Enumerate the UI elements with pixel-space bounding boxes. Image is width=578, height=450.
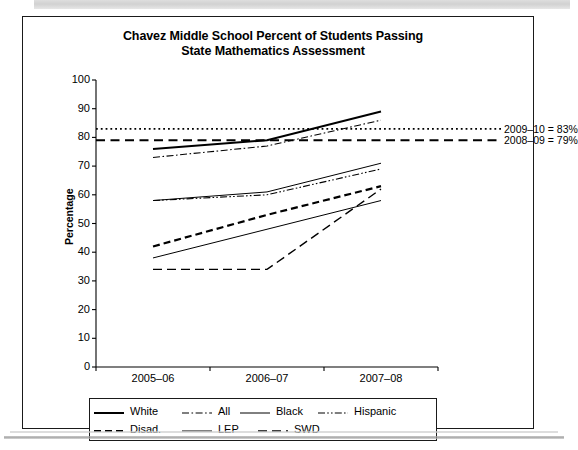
x-tick-label-1: 2006–07 <box>246 372 289 384</box>
legend-item-white[interactable]: White <box>94 402 158 420</box>
reference-label-2009-10: 2009–10 = 83% <box>504 123 578 135</box>
legend-label: Hispanic <box>354 405 396 417</box>
scan-artifact-top-left <box>0 0 34 9</box>
y-tick-label-30: 30 <box>64 275 90 286</box>
y-tick-label-10: 10 <box>64 332 90 343</box>
legend-label: White <box>130 405 158 417</box>
chart-axes <box>92 80 438 371</box>
y-axis-tick-labels: 0102030405060708090100 <box>62 80 90 367</box>
series-line-lep <box>153 201 381 258</box>
legend-line-icon <box>182 423 212 435</box>
y-tick-label-20: 20 <box>64 304 90 315</box>
legend-row-1: WhiteAllBlackHispanic <box>90 402 438 420</box>
chart-series-group <box>153 112 381 270</box>
legend-swatch-line <box>182 407 212 419</box>
legend-item-black[interactable]: Black <box>240 402 303 420</box>
chart-legend: WhiteAllBlackHispanic Disad.LEPSWD <box>89 398 437 441</box>
series-line-white <box>153 112 381 149</box>
legend-label: LEP <box>218 423 239 435</box>
y-tick-label-90: 90 <box>64 103 90 114</box>
plot-area: Percentage 0102030405060708090100 2005–0… <box>96 80 438 367</box>
legend-line-icon <box>94 405 124 417</box>
scan-artifact-top <box>30 0 570 9</box>
legend-line-icon <box>182 405 212 417</box>
legend-swatch-line <box>94 407 124 419</box>
legend-line-icon <box>258 423 288 435</box>
figure-frame: Chavez Middle School Percent of Students… <box>22 16 534 429</box>
y-tick-label-70: 70 <box>64 160 90 171</box>
legend-label: Black <box>276 405 303 417</box>
y-tick-label-80: 80 <box>64 131 90 142</box>
legend-line-icon <box>94 423 124 435</box>
chart-title-line-2: State Mathematics Assessment <box>63 44 483 59</box>
legend-item-all[interactable]: All <box>182 402 230 420</box>
chart-title-line-1: Chavez Middle School Percent of Students… <box>63 29 483 44</box>
x-axis-tick-labels: 2005–062006–072007–08 <box>96 372 438 392</box>
x-tick-label-0: 2005–06 <box>132 372 175 384</box>
series-line-all <box>153 120 381 157</box>
page-title: Chavez Middle School Percent of Students… <box>63 29 483 59</box>
scan-artifact-bottom <box>4 436 564 439</box>
y-tick-label-100: 100 <box>64 74 90 85</box>
legend-line-icon <box>240 405 270 417</box>
legend-swatch-line <box>240 407 270 419</box>
reference-label-2008-09: 2008–09 = 79% <box>504 134 578 146</box>
y-tick-label-50: 50 <box>64 218 90 229</box>
chart-plot-svg <box>96 80 438 367</box>
legend-line-icon <box>318 405 348 417</box>
legend-label: SWD <box>294 423 320 435</box>
legend-swatch-line <box>318 407 348 419</box>
y-tick-label-40: 40 <box>64 246 90 257</box>
legend-label: All <box>218 405 230 417</box>
y-tick-label-60: 60 <box>64 189 90 200</box>
x-tick-label-2: 2007–08 <box>360 372 403 384</box>
legend-item-hispanic[interactable]: Hispanic <box>318 402 396 420</box>
scan-artifact-bottom-faint <box>10 431 558 433</box>
y-tick-label-0: 0 <box>64 361 90 372</box>
legend-label: Disad. <box>130 423 161 435</box>
